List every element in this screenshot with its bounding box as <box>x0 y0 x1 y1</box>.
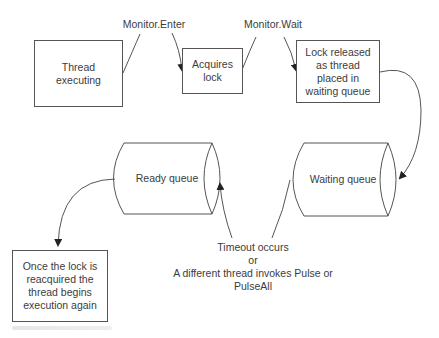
wait-line-left <box>242 37 256 70</box>
node-acquires-lock: Acquires lock <box>182 48 243 94</box>
node-lock-released: Lock released as thread placed in waitin… <box>296 40 380 103</box>
edge-label-timeout: Timeout occurs or A different thread inv… <box>158 241 348 293</box>
figure-caption-faded <box>12 326 112 330</box>
node-ready-queue-label: Ready queue <box>128 172 206 185</box>
ready-to-reacquired-arrow <box>58 179 115 245</box>
edge-label-timeout-line1: Timeout occurs <box>158 241 348 254</box>
edge-label-timeout-line4: PulseAll <box>158 280 348 293</box>
enter-arrow <box>172 33 182 70</box>
timeout-line-right <box>272 180 290 238</box>
node-thread-executing-label: Thread executing <box>49 61 109 87</box>
enter-line-left <box>123 34 140 73</box>
node-lock-released-label: Lock released as thread placed in waitin… <box>300 46 376 98</box>
edge-label-monitor-enter: Monitor.Enter <box>118 18 190 31</box>
node-reacquired: Once the lock is reacquired the thread b… <box>12 250 108 322</box>
edge-label-timeout-line3: A different thread invokes Pulse or <box>158 267 348 280</box>
edge-label-timeout-line2: or <box>158 254 348 267</box>
node-reacquired-label: Once the lock is reacquired the thread b… <box>19 260 101 312</box>
edge-label-monitor-wait: Monitor.Wait <box>238 18 308 31</box>
timeout-arrow <box>220 184 232 238</box>
node-acquires-lock-label: Acquires lock <box>188 58 238 84</box>
node-waiting-queue-label: Waiting queue <box>302 173 384 186</box>
released-to-waiting-arrow <box>380 70 421 178</box>
node-thread-executing: Thread executing <box>34 40 123 107</box>
wait-arrow <box>284 37 296 70</box>
